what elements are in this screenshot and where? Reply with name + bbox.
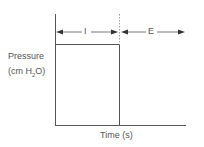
y-axis-label-line2: (cm H2O) xyxy=(8,66,45,78)
inspiration-span-arrow xyxy=(56,30,118,35)
expiration-label: E xyxy=(148,26,154,36)
inspiration-label: I xyxy=(84,26,87,36)
y-unit-suffix: O) xyxy=(35,66,45,76)
x-axis-label: Time (s) xyxy=(100,130,133,140)
y-unit-prefix: (cm H xyxy=(8,66,32,76)
y-axis-label-line1: Pressure xyxy=(8,51,44,61)
pressure-waveform xyxy=(56,45,120,126)
